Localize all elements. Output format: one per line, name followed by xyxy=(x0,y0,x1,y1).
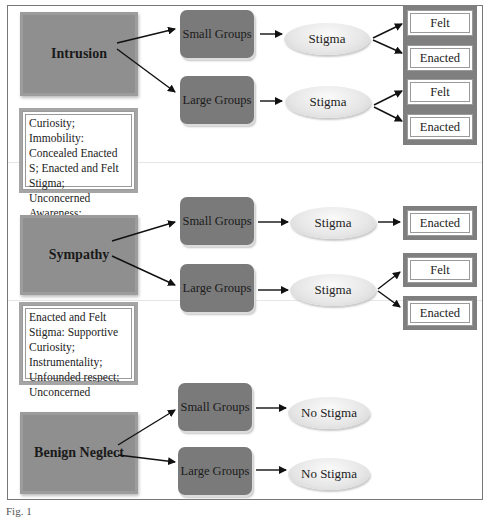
result-sympathy-small: Stigma xyxy=(290,207,376,239)
category-label: Benign Neglect xyxy=(34,445,124,461)
result-label: Stigma xyxy=(315,282,352,298)
note-sympathy: Enacted and Felt Stigma: Supportive Curi… xyxy=(22,305,135,382)
result-label: No Stigma xyxy=(301,405,357,421)
outcome-label: Enacted xyxy=(407,300,473,326)
group-intrusion-large: Large Groups xyxy=(180,76,254,124)
group-label: Large Groups xyxy=(183,92,252,108)
outcome-label: Felt xyxy=(430,16,449,31)
group-sympathy-large: Large Groups xyxy=(180,264,254,312)
outcome-felt: Felt xyxy=(407,10,473,36)
outcome-label: Felt xyxy=(430,85,449,100)
group-intrusion-small: Small Groups xyxy=(180,10,254,58)
group-benign-large: Large Groups xyxy=(178,447,252,495)
outcome-enacted: Enacted xyxy=(407,45,473,71)
group-label: Large Groups xyxy=(181,463,250,479)
category-sympathy: Sympathy xyxy=(20,215,138,295)
result-label: Stigma xyxy=(315,215,352,231)
category-label: Sympathy xyxy=(49,247,110,263)
result-label: Stigma xyxy=(310,94,347,110)
outcome-label: Enacted xyxy=(407,210,473,236)
group-label: Large Groups xyxy=(183,280,252,296)
group-label: Small Groups xyxy=(182,213,251,229)
note-intrusion: Curiosity; Immobility: Concealed Enacted… xyxy=(22,111,135,190)
group-benign-small: Small Groups xyxy=(178,383,252,431)
outcome-enacted: Enacted xyxy=(403,296,477,330)
result-label: No Stigma xyxy=(301,466,357,482)
outcome-felt: Felt xyxy=(403,253,477,287)
category-intrusion: Intrusion xyxy=(20,12,138,96)
outcome-enacted: Enacted xyxy=(407,114,473,140)
group-label: Small Groups xyxy=(182,26,251,42)
result-intrusion-small: Stigma xyxy=(284,23,370,55)
result-sympathy-large: Stigma xyxy=(290,274,376,306)
result-intrusion-large: Stigma xyxy=(285,86,371,118)
group-label: Small Groups xyxy=(180,399,249,415)
result-benign-small: No Stigma xyxy=(288,397,370,429)
outcome-label: Felt xyxy=(407,257,473,283)
result-label: Stigma xyxy=(309,31,346,47)
category-benign-neglect: Benign Neglect xyxy=(20,412,138,494)
outcome-felt: Felt xyxy=(407,79,473,105)
group-sympathy-small: Small Groups xyxy=(180,197,254,245)
outcome-label: Enacted xyxy=(420,51,460,66)
outcome-enacted: Enacted xyxy=(403,206,477,240)
result-benign-large: No Stigma xyxy=(288,458,370,490)
figure-caption: Fig. 1 xyxy=(6,505,32,517)
outcome-label: Enacted xyxy=(420,120,460,135)
category-label: Intrusion xyxy=(51,46,107,62)
